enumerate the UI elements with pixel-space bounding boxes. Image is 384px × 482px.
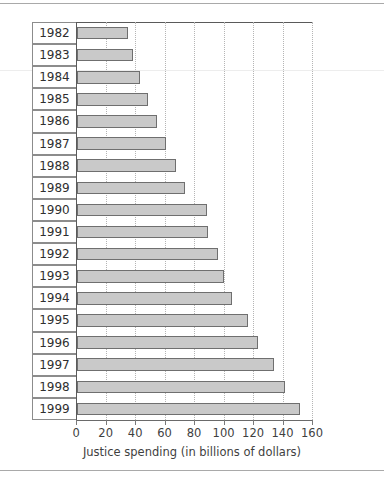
x-axis-title: Justice spending (in billions of dollars… (0, 445, 384, 459)
bar-1982 (77, 27, 128, 40)
year-label-1986: 1986 (32, 110, 76, 132)
year-label-1991: 1991 (32, 221, 76, 243)
year-label-1992: 1992 (32, 243, 76, 265)
chart-row: 1986 (0, 110, 384, 132)
year-label-1998: 1998 (32, 376, 76, 398)
year-label-1985: 1985 (32, 88, 76, 110)
bar-1989 (77, 182, 185, 195)
x-tick-80 (194, 420, 195, 425)
year-label-1987: 1987 (32, 133, 76, 155)
chart-row: 1993 (0, 265, 384, 287)
bar-1997 (77, 358, 274, 371)
chart-row: 1984 (0, 66, 384, 88)
chart-row: 1999 (0, 398, 384, 420)
x-tick-label: 20 (98, 426, 113, 440)
bar-chart: 1982198319841985198619871988198919901991… (0, 0, 384, 482)
chart-row: 1995 (0, 309, 384, 331)
year-label-1983: 1983 (32, 44, 76, 66)
chart-row: 1994 (0, 287, 384, 309)
x-tick-label: 60 (157, 426, 172, 440)
bar-1998 (77, 381, 285, 394)
chart-row: 1985 (0, 88, 384, 110)
chart-row: 1990 (0, 199, 384, 221)
year-label-1993: 1993 (32, 265, 76, 287)
year-label-1996: 1996 (32, 332, 76, 354)
chart-row: 1998 (0, 376, 384, 398)
bar-1983 (77, 49, 133, 62)
bar-1985 (77, 93, 148, 106)
chart-row: 1982 (0, 22, 384, 44)
year-label-1994: 1994 (32, 287, 76, 309)
bar-1986 (77, 115, 157, 128)
x-tick-0 (76, 420, 77, 425)
chart-row: 1989 (0, 177, 384, 199)
chart-row: 1983 (0, 44, 384, 66)
bar-1988 (77, 159, 176, 172)
x-tick-120 (253, 420, 254, 425)
x-tick-140 (283, 420, 284, 425)
bar-1993 (77, 270, 224, 283)
bar-1991 (77, 226, 208, 239)
year-label-1999: 1999 (32, 398, 76, 420)
bar-1999 (77, 403, 300, 416)
chart-row: 1991 (0, 221, 384, 243)
x-tick-label: 80 (187, 426, 202, 440)
year-label-1988: 1988 (32, 155, 76, 177)
x-tick-label: 140 (272, 426, 294, 440)
chart-row: 1996 (0, 332, 384, 354)
chart-row: 1988 (0, 155, 384, 177)
bar-1984 (77, 71, 140, 84)
x-tick-100 (224, 420, 225, 425)
bar-1990 (77, 204, 207, 217)
bar-1996 (77, 336, 258, 349)
x-tick-40 (135, 420, 136, 425)
x-tick-label: 100 (213, 426, 235, 440)
chart-row: 1997 (0, 354, 384, 376)
bar-1992 (77, 248, 218, 261)
year-label-1997: 1997 (32, 354, 76, 376)
x-tick-label: 160 (301, 426, 323, 440)
year-label-1982: 1982 (32, 22, 76, 44)
x-tick-60 (165, 420, 166, 425)
year-label-1989: 1989 (32, 177, 76, 199)
year-label-1995: 1995 (32, 309, 76, 331)
x-tick-label: 0 (73, 426, 80, 440)
x-tick-label: 40 (128, 426, 143, 440)
chart-row: 1987 (0, 133, 384, 155)
year-label-1990: 1990 (32, 199, 76, 221)
x-tick-160 (312, 420, 313, 425)
bar-1987 (77, 137, 166, 150)
year-label-1984: 1984 (32, 66, 76, 88)
bar-1994 (77, 292, 232, 305)
bar-1995 (77, 314, 248, 327)
chart-row: 1992 (0, 243, 384, 265)
x-tick-label: 120 (242, 426, 264, 440)
x-tick-20 (106, 420, 107, 425)
